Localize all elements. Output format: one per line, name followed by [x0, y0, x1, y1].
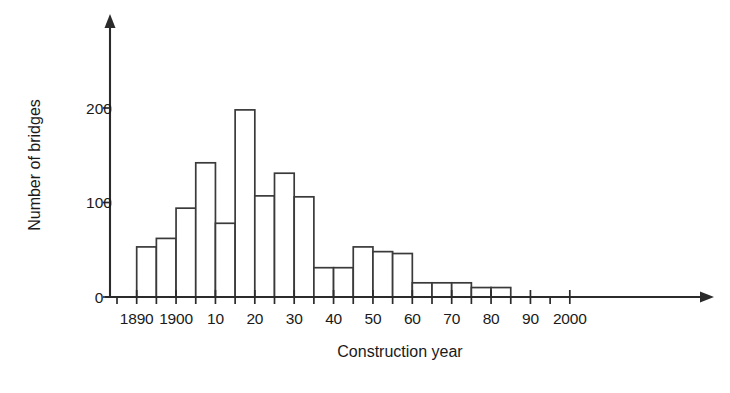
- histogram-bar: [353, 247, 373, 297]
- histogram-bar: [294, 197, 314, 297]
- histogram-bar: [215, 223, 235, 297]
- histogram-bar: [334, 268, 354, 297]
- x-axis-tick-label: 80: [483, 310, 500, 327]
- histogram-bar: [452, 283, 472, 297]
- y-axis: 0100200: [86, 14, 117, 306]
- histogram-bar: [255, 196, 275, 297]
- histogram-bar: [275, 173, 295, 297]
- x-axis-tick-label: 90: [522, 310, 539, 327]
- x-axis-tick-label: 40: [325, 310, 342, 327]
- histogram-bar: [373, 252, 393, 297]
- histogram-bar: [314, 268, 334, 297]
- y-axis-tick-label: 0: [95, 289, 104, 306]
- y-axis-tick-label: 100: [86, 194, 112, 211]
- histogram-chart: 189019001020304050607080902000 0100200 C…: [0, 0, 730, 393]
- histogram-bar: [235, 110, 255, 297]
- chart-canvas: 189019001020304050607080902000 0100200 C…: [0, 0, 730, 393]
- x-axis-title: Construction year: [337, 343, 463, 360]
- x-axis-tick-label: 1890: [120, 310, 154, 327]
- histogram-bar: [471, 288, 491, 297]
- histogram-bar: [491, 288, 511, 297]
- histogram-bar: [412, 283, 432, 297]
- x-axis-arrow-icon: [700, 292, 714, 303]
- y-axis-tick-labels: 0100200: [86, 100, 112, 306]
- x-axis-tick-label: 2000: [553, 310, 587, 327]
- x-axis-tick-label: 70: [443, 310, 460, 327]
- histogram-bar: [137, 247, 157, 297]
- x-axis-tick-label: 30: [286, 310, 303, 327]
- y-axis-title: Number of bridges: [26, 99, 43, 231]
- x-axis-tick-label: 1900: [159, 310, 193, 327]
- histogram-bar: [393, 254, 413, 297]
- histogram-bar: [156, 238, 176, 297]
- x-axis-tick-label: 20: [246, 310, 263, 327]
- x-axis-tick-label: 60: [404, 310, 421, 327]
- x-axis-tick-label: 10: [207, 310, 224, 327]
- histogram-bar: [432, 283, 452, 297]
- histogram-bar: [176, 208, 196, 297]
- x-axis-tick-label: 50: [365, 310, 382, 327]
- histogram-bar: [196, 163, 216, 297]
- bars-group: [137, 110, 511, 297]
- x-axis-tick-labels: 189019001020304050607080902000: [120, 310, 587, 327]
- y-axis-tick-label: 200: [86, 100, 112, 117]
- y-axis-arrow-icon: [105, 14, 116, 28]
